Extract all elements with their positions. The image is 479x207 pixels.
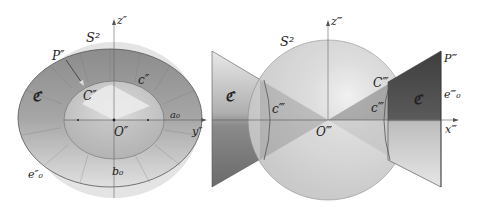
cone-right [388,51,441,187]
label-z-axis: z″ [116,14,128,27]
label-e0: e″₀ [28,168,44,181]
label-curve-c: c″ [138,73,150,87]
label-a0: a₀ [170,109,180,120]
label-b0: b₀ [112,165,124,178]
label-y-axis: y″ [191,125,203,138]
label-sphere-right: S² [280,34,294,49]
label-point-p-right: P‴ [443,52,457,65]
diagram-canvas: S² z″ P″ C″ ℭ c″ a₀ y″ O″ b₀ e″₀ S² z‴ ℭ… [0,0,479,207]
right-panel: S² z‴ ℭ c‴ O‴ C‴ c‴ ℭ P‴ e‴₀ x‴ [212,15,461,200]
label-z-axis-right: z‴ [330,15,343,28]
label-x-axis-right: x‴ [445,123,457,136]
label-curve-c-right: c‴ [371,101,385,115]
label-origin-right: O‴ [316,125,333,139]
label-curve-c-left: c‴ [272,102,286,116]
label-point-p: P″ [51,49,65,63]
label-point-c-right: C‴ [373,76,389,90]
label-e0-right: e‴₀ [444,88,461,101]
label-point-c: C″ [83,89,97,103]
left-panel: S² z″ P″ C″ ℭ c″ a₀ y″ O″ b₀ e″₀ [18,14,207,198]
label-origin: O″ [114,125,129,139]
label-sphere: S² [86,30,100,45]
